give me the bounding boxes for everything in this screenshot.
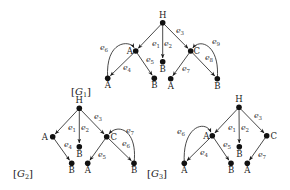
node-label: B bbox=[76, 149, 82, 159]
edge-label-e3: e3 bbox=[176, 26, 185, 36]
node-h bbox=[160, 20, 166, 26]
node-a1 bbox=[133, 48, 139, 54]
graph-diagram-canvas: e1e2e3e4e5e6e7e8e9HABCABAB[G1]e1e2e3e4e5… bbox=[0, 0, 290, 190]
edge-label-e6: e6 bbox=[177, 127, 186, 137]
graph-g3: e1e2e3e4e5e6e7HABCABA[G3] bbox=[147, 94, 277, 181]
node-label: A bbox=[180, 165, 188, 175]
edge-label-e7: e7 bbox=[182, 64, 191, 74]
graph-g1: e1e2e3e4e5e6e7e8e9HABCABAB[G1] bbox=[71, 10, 221, 99]
edge-label-e1: e1 bbox=[228, 123, 236, 133]
node-a1 bbox=[50, 134, 56, 140]
node-label: A bbox=[104, 80, 112, 90]
edge-label-e4: e4 bbox=[123, 63, 132, 73]
node-label: H bbox=[76, 95, 83, 105]
node-label: H bbox=[159, 10, 166, 20]
edge-label-e6: e6 bbox=[122, 139, 131, 149]
node-label: H bbox=[235, 94, 242, 104]
edge-label-e2: e2 bbox=[81, 123, 89, 133]
node-label: B bbox=[228, 165, 234, 175]
edge-label-e7: e7 bbox=[258, 150, 267, 160]
node-a1 bbox=[210, 133, 216, 139]
edge-label-e3: e3 bbox=[94, 112, 103, 122]
node-label: B bbox=[69, 165, 75, 175]
node-label: A bbox=[202, 131, 210, 141]
node-label: B bbox=[236, 149, 242, 159]
node-label: A bbox=[84, 165, 92, 175]
graph-title-g3: [G3] bbox=[147, 168, 167, 181]
edge-label-e2: e2 bbox=[164, 39, 172, 49]
edge-label-e3: e3 bbox=[254, 111, 263, 121]
edge-label-e4: e4 bbox=[200, 148, 209, 158]
edge-label-e5: e5 bbox=[223, 140, 232, 150]
node-h bbox=[77, 106, 83, 112]
edge-label-e1: e1 bbox=[152, 39, 160, 49]
edge-label-e4: e4 bbox=[64, 140, 73, 150]
node-label: B bbox=[131, 165, 137, 175]
node-label: A bbox=[167, 81, 175, 91]
edge-label-e6: e6 bbox=[100, 43, 109, 53]
node-label: B bbox=[151, 80, 157, 90]
graph-g2: e1e2e3e4e5e6e7HABCBAB[G2] bbox=[13, 95, 137, 181]
node-label: C bbox=[270, 131, 277, 141]
node-h bbox=[236, 105, 242, 111]
graph-title-g2: [G2] bbox=[13, 168, 33, 181]
node-label: A bbox=[126, 46, 134, 56]
edge-label-e5: e5 bbox=[98, 150, 107, 160]
node-label: A bbox=[243, 165, 251, 175]
node-label: B bbox=[160, 64, 166, 74]
node-label: C bbox=[193, 46, 200, 56]
node-label: C bbox=[110, 132, 117, 142]
edge-label-e1: e1 bbox=[68, 123, 76, 133]
node-c bbox=[104, 134, 110, 140]
graph-diagram: e1e2e3e4e5e6e7e8e9HABCABAB[G1]e1e2e3e4e5… bbox=[0, 0, 290, 190]
node-label: B bbox=[214, 81, 220, 91]
edge-label-e5: e5 bbox=[146, 55, 155, 65]
node-c bbox=[264, 133, 270, 139]
edge-label-e2: e2 bbox=[241, 123, 249, 133]
node-label: A bbox=[41, 132, 49, 142]
edge-label-e8: e8 bbox=[205, 53, 214, 63]
edge-label-e9: e9 bbox=[212, 37, 221, 47]
edge-label-e7: e7 bbox=[126, 126, 135, 136]
